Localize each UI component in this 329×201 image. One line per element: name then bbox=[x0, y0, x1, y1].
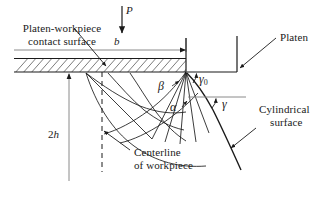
cylindrical-free-surface bbox=[186, 72, 241, 170]
h-arrow-up bbox=[67, 73, 72, 79]
platen-workpiece-contact-band bbox=[14, 56, 206, 74]
gamma-zero-subscript: 0 bbox=[204, 78, 208, 87]
width-label-b: b bbox=[114, 35, 120, 48]
centerline-leader bbox=[104, 131, 130, 150]
beta-slip-line-left bbox=[86, 73, 152, 139]
cylindrical-surface-label-line1: Cylindrical bbox=[259, 103, 310, 115]
platen-outline bbox=[186, 36, 237, 72]
gamma-zero-label: γ0 bbox=[199, 73, 208, 90]
b-arrow-right bbox=[180, 48, 186, 53]
gamma-angle-arc bbox=[212, 99, 216, 109]
load-label-P: P bbox=[126, 4, 133, 17]
contact-surface-label: Platen-workpiece contact surface bbox=[8, 22, 116, 47]
height-label-2h: 2h bbox=[48, 128, 59, 141]
cylindrical-surface-label-line2: surface bbox=[270, 116, 302, 129]
platen-leader bbox=[240, 38, 276, 68]
alpha-slip-line-2 bbox=[120, 93, 198, 143]
contact-surface-label-line2: contact surface bbox=[28, 35, 96, 47]
centerline-label-line1: Centerline bbox=[134, 146, 181, 158]
platen-label: Platen bbox=[280, 31, 308, 44]
centerline-label-line2: of workpiece bbox=[134, 159, 193, 171]
centerline-label: Centerline of workpiece bbox=[134, 146, 193, 171]
dimension-2h bbox=[67, 73, 72, 181]
cylindrical-surface-label: Cylindrical surface bbox=[259, 103, 310, 128]
contact-surface-label-line1: Platen-workpiece bbox=[23, 22, 102, 34]
beta-label: β bbox=[158, 80, 164, 93]
gamma-reference-line bbox=[188, 97, 246, 108]
height-label-symbol: h bbox=[54, 128, 60, 140]
alpha-label: α bbox=[170, 101, 176, 114]
slip-line-field-figure: Platen-workpiece contact surface P b Pla… bbox=[0, 0, 329, 201]
gamma-label: γ bbox=[222, 98, 227, 111]
cylindrical-surface-leader bbox=[231, 128, 256, 148]
